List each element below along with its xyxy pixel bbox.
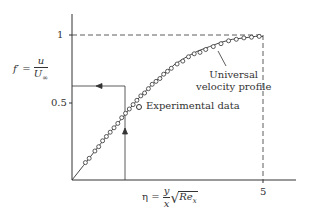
data-point	[204, 48, 208, 52]
data-point	[143, 91, 147, 95]
data-point	[242, 36, 246, 40]
open-circle-marker-icon	[136, 104, 142, 110]
ylabel-lhs: f′ =	[13, 63, 31, 74]
data-point	[162, 72, 166, 76]
y-tick-label-05: 0.5	[51, 98, 67, 108]
data-point	[108, 130, 112, 134]
data-point	[104, 135, 108, 139]
x-axis-label: η = y x √Rex	[142, 186, 198, 209]
data-point	[93, 149, 97, 153]
data-point	[227, 39, 231, 43]
data-point	[154, 79, 158, 83]
data-point	[131, 103, 135, 107]
data-point	[181, 59, 185, 63]
reading-arrows	[72, 84, 128, 181]
data-point	[97, 145, 101, 149]
data-point	[166, 69, 170, 73]
data-point	[83, 161, 87, 165]
data-point	[169, 66, 173, 70]
annotation-universal-profile: Universal velocity profile	[196, 70, 271, 92]
data-point	[139, 94, 143, 98]
data-point	[124, 111, 128, 115]
legend-label: Experimental data	[146, 100, 240, 111]
data-point	[158, 77, 162, 81]
data-point	[192, 52, 196, 56]
xlabel-fraction: y x	[163, 186, 171, 209]
axes	[69, 14, 296, 183]
data-point	[127, 107, 131, 111]
y-tick-label-1: 1	[57, 30, 63, 40]
data-point	[112, 126, 116, 130]
data-point	[219, 42, 223, 46]
ylabel-numerator: u	[34, 56, 48, 68]
legend-experimental-data: Experimental data	[136, 101, 240, 111]
arrow-up-icon	[123, 128, 128, 134]
ylabel-fraction: u U∞	[34, 56, 48, 82]
annotation-leader	[218, 51, 226, 66]
data-point	[146, 87, 150, 91]
data-point	[116, 121, 120, 125]
data-point	[234, 37, 238, 41]
data-point	[87, 156, 91, 160]
x-tick-label-5: 5	[260, 187, 266, 197]
ylabel-denominator: U∞	[34, 68, 48, 82]
xlabel-lhs: η =	[142, 191, 160, 202]
data-point	[187, 55, 191, 59]
xlabel-radicand: Rex	[178, 191, 197, 205]
y-axis-label: f′ = u U∞	[13, 56, 48, 82]
data-point	[120, 116, 124, 120]
data-point	[250, 35, 254, 39]
data-point	[198, 50, 202, 54]
data-point	[175, 62, 179, 66]
data-point	[150, 82, 154, 86]
data-point	[211, 45, 215, 49]
data-point	[257, 34, 261, 38]
arrow-left-icon	[96, 84, 102, 89]
data-point	[101, 139, 105, 143]
